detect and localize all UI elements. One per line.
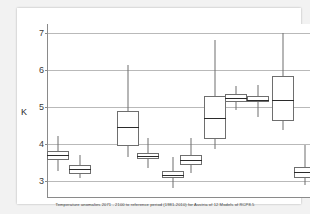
median-line xyxy=(204,118,226,119)
whisker-upper xyxy=(215,40,216,96)
whisker-upper xyxy=(80,155,81,164)
whisker-upper xyxy=(148,138,149,153)
median-line xyxy=(247,100,269,101)
median-line xyxy=(47,155,69,156)
boxplot-model-7 xyxy=(204,24,226,197)
whisker-upper xyxy=(305,145,306,167)
chart-caption: Temperature anomalies 2071 - 2100 to ref… xyxy=(0,203,310,208)
whisker-lower xyxy=(128,146,129,157)
y-axis-label: K xyxy=(21,108,27,117)
iqr-box xyxy=(117,111,139,146)
iqr-box xyxy=(272,76,294,122)
boxplot-model-8 xyxy=(225,24,247,197)
boxplot-model-10 xyxy=(272,24,294,197)
y-tick-label-6: 6 xyxy=(39,66,44,75)
whisker-lower xyxy=(258,102,259,116)
median-line xyxy=(180,160,202,161)
whisker-lower xyxy=(283,121,284,130)
whisker-lower xyxy=(191,165,192,174)
chart-panel: K 34567 xyxy=(17,8,301,204)
median-line xyxy=(137,156,159,157)
y-tick-label-3: 3 xyxy=(39,177,44,186)
boxplot-model-4 xyxy=(137,24,159,197)
boxplot-model-1 xyxy=(47,24,69,197)
whisker-lower xyxy=(80,174,81,178)
whisker-upper xyxy=(258,85,259,96)
median-line xyxy=(294,172,310,173)
boxplot-model-9 xyxy=(247,24,269,197)
y-tick-label-4: 4 xyxy=(39,140,44,149)
boxplot-model-6 xyxy=(180,24,202,197)
whisker-upper xyxy=(173,157,174,171)
whisker-lower xyxy=(58,160,59,171)
whisker-lower xyxy=(236,102,237,110)
median-line xyxy=(225,98,247,99)
whisker-upper xyxy=(236,86,237,95)
whisker-lower xyxy=(215,139,216,149)
whisker-lower xyxy=(148,159,149,168)
y-tick-label-7: 7 xyxy=(39,29,44,38)
whisker-lower xyxy=(305,178,306,185)
median-line xyxy=(272,100,294,101)
whisker-upper xyxy=(128,65,129,111)
boxplot-figure: K 34567 Temperature anomalies 2071 - 210… xyxy=(0,0,310,214)
whisker-upper xyxy=(58,136,59,151)
whisker-upper xyxy=(283,33,284,76)
boxplot-model-2 xyxy=(69,24,91,197)
boxplot-model-3 xyxy=(117,24,139,197)
plot-area: 34567 xyxy=(47,24,310,198)
median-line xyxy=(117,127,139,128)
median-line xyxy=(69,169,91,170)
boxplot-model-11 xyxy=(294,24,310,197)
whisker-upper xyxy=(191,138,192,156)
y-tick-label-5: 5 xyxy=(39,103,44,112)
whisker-lower xyxy=(173,178,174,188)
